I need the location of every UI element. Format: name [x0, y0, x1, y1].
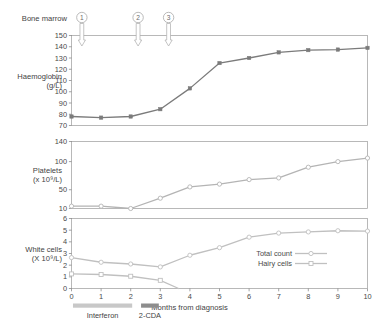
bone-marrow-marker-2: 2 — [133, 12, 143, 46]
legend: Total countHairy cells — [256, 249, 327, 268]
data-point — [336, 229, 340, 233]
data-point — [129, 206, 133, 210]
data-point — [70, 272, 74, 276]
data-point — [188, 87, 191, 90]
x-tick-label: 4 — [188, 292, 192, 301]
y-axis-title: Platelets — [33, 166, 62, 175]
plot-frame — [72, 142, 368, 209]
treatment-bars: Interferon2-CDA — [73, 304, 161, 321]
x-tick-label: 8 — [306, 292, 310, 301]
panel-haemoglobin: 708090100110120130140150Haemoglobin(g/L) — [17, 31, 369, 130]
data-point — [366, 46, 369, 49]
data-point — [99, 204, 103, 208]
data-point — [277, 231, 281, 235]
plot-frame — [72, 36, 368, 126]
data-point — [247, 235, 251, 239]
x-tick-label: 7 — [277, 292, 281, 301]
marker-number: 1 — [80, 14, 84, 21]
data-point — [277, 51, 280, 54]
data-point — [99, 116, 102, 119]
data-point — [247, 56, 250, 59]
marker-arrow — [135, 24, 142, 47]
y-axis-title: White cells — [25, 245, 62, 254]
data-point — [247, 178, 251, 182]
data-point — [336, 48, 339, 51]
data-point — [365, 229, 369, 233]
data-point — [365, 156, 369, 160]
y-tick-label: 140 — [55, 42, 67, 51]
data-point — [277, 176, 281, 180]
data-point — [188, 185, 192, 189]
data-point — [188, 253, 192, 257]
x-tick-label: 0 — [69, 292, 73, 301]
treatment-label-interferon: Interferon — [87, 311, 119, 320]
y-tick-label: 140 — [55, 137, 67, 146]
data-point — [307, 48, 310, 51]
data-point — [158, 278, 162, 282]
y-tick-label: 90 — [59, 99, 67, 108]
y-axis-title: Haemoglobin — [17, 72, 62, 81]
bone-marrow-marker-3: 3 — [163, 12, 173, 46]
treatment-label-2-cda: 2-CDA — [139, 311, 161, 320]
figure-root: 708090100110120130140150Haemoglobin(g/L)… — [0, 0, 388, 331]
y-axis-units: (x 10⁹/L) — [33, 175, 62, 184]
x-tick-label: 9 — [336, 292, 340, 301]
data-point — [158, 265, 162, 269]
data-point — [69, 204, 73, 208]
data-point — [217, 182, 221, 186]
bone-marrow-markers: Bone marrow123 — [22, 12, 174, 46]
bone-marrow-marker-1: 1 — [77, 12, 87, 46]
y-tick-label: 150 — [55, 31, 67, 40]
data-point — [99, 273, 103, 277]
data-point — [129, 262, 133, 266]
y-tick-label: 4 — [63, 237, 67, 246]
marker-number: 2 — [136, 14, 140, 21]
y-tick-label: 10 — [59, 204, 67, 213]
marker-arrow — [165, 24, 172, 47]
data-point — [129, 115, 132, 118]
x-tick-label: 5 — [217, 292, 221, 301]
x-tick-label: 2 — [129, 292, 133, 301]
data-point — [306, 165, 310, 169]
y-axis-units: (X 10⁹/L) — [32, 254, 63, 263]
y-tick-label: 1 — [63, 272, 67, 281]
data-point — [217, 246, 221, 250]
y-tick-label: 70 — [59, 121, 67, 130]
data-point — [336, 160, 340, 164]
data-point — [69, 255, 73, 259]
y-tick-label: 5 — [63, 226, 67, 235]
bone-marrow-label: Bone marrow — [22, 14, 68, 23]
data-point — [159, 107, 162, 110]
multi-panel-chart: 708090100110120130140150Haemoglobin(g/L)… — [0, 0, 388, 331]
y-tick-label: 0 — [63, 284, 67, 293]
y-tick-label: 130 — [55, 54, 67, 63]
y-tick-label: 50 — [59, 185, 67, 194]
legend-label-total-count: Total count — [256, 249, 292, 258]
panel-platelets: 1050100140Platelets(x 10⁹/L) — [33, 137, 370, 213]
data-point — [158, 196, 162, 200]
y-tick-label: 80 — [59, 110, 67, 119]
y-tick-label: 2 — [63, 261, 67, 270]
x-tick-label: 3 — [158, 292, 162, 301]
data-point — [99, 260, 103, 264]
data-point — [309, 262, 313, 266]
legend-label-hairy-cells: Hairy cells — [258, 259, 292, 268]
x-tick-label: 1 — [99, 292, 103, 301]
x-tick-label: 6 — [247, 292, 251, 301]
data-point — [309, 251, 313, 255]
panel-white-cells: 0123456White cells(X 10⁹/L)012345678910M… — [25, 214, 371, 311]
y-tick-label: 6 — [63, 214, 67, 223]
y-axis-units: (g/L) — [46, 81, 62, 90]
series-line-haemoglobin — [72, 48, 368, 118]
x-axis-title: Months from diagnosis — [151, 303, 228, 312]
data-point — [70, 115, 73, 118]
y-tick-label: 3 — [63, 249, 67, 258]
data-point — [129, 274, 133, 278]
data-point — [306, 230, 310, 234]
treatment-bar-interferon — [73, 304, 132, 308]
marker-number: 3 — [167, 14, 171, 21]
x-tick-label: 10 — [363, 292, 371, 301]
y-tick-label: 100 — [55, 157, 67, 166]
treatment-bar-2-cda — [141, 304, 159, 308]
marker-arrow — [78, 24, 85, 47]
